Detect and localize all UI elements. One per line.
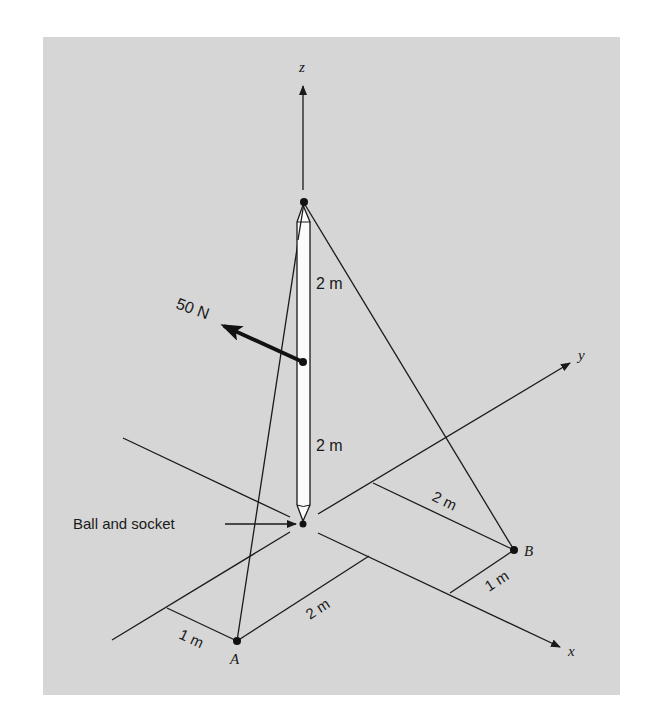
pole-upper-length-label: 2 m <box>316 275 343 292</box>
ball-and-socket-point <box>300 521 307 528</box>
pole-cable-diagram: z y x 50 N 2 m <box>0 0 649 726</box>
point-b <box>510 546 518 554</box>
diagram-panel <box>43 37 620 695</box>
pole-lower-length-label: 2 m <box>316 437 343 454</box>
y-axis-label: y <box>576 347 585 363</box>
point-a-label: A <box>229 651 240 667</box>
force-application-point <box>299 358 307 366</box>
pole-top-point <box>300 198 308 206</box>
x-axis-label: x <box>567 643 575 659</box>
ball-and-socket-label: Ball and socket <box>73 515 176 532</box>
z-axis-label: z <box>298 59 305 75</box>
figure-stage: z y x 50 N 2 m <box>0 0 649 726</box>
point-b-label: B <box>524 543 533 559</box>
point-a <box>233 637 241 645</box>
